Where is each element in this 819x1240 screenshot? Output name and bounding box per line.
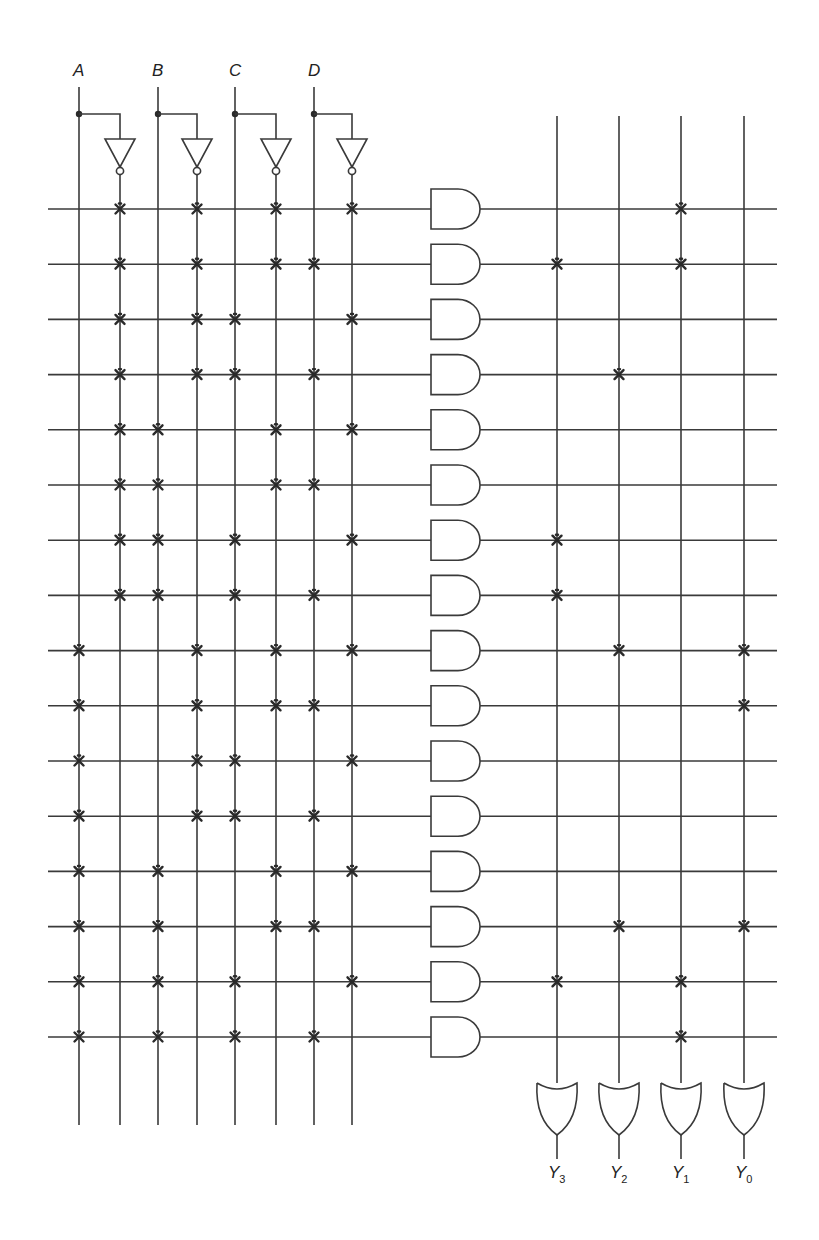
output-label: Y3	[548, 1163, 565, 1185]
and-gate-icon	[431, 962, 480, 1002]
inverter-icon	[182, 139, 212, 175]
inverter-icon	[337, 139, 367, 175]
inverter-icon	[105, 139, 135, 175]
output-y3	[553, 116, 562, 1083]
input-label: C	[229, 61, 242, 80]
output-label: Y1	[672, 1163, 689, 1185]
output-label: Y0	[735, 1163, 752, 1185]
and-gate-icon	[431, 575, 480, 615]
and-gate-icon	[431, 1017, 480, 1057]
input-label: A	[72, 61, 84, 80]
or-plane	[553, 116, 749, 1083]
and-gate-icon	[431, 299, 480, 339]
and-gate-icon	[431, 465, 480, 505]
input-a: A	[72, 61, 135, 1125]
and-gate-icon	[431, 189, 480, 229]
or-gate-icon	[661, 1083, 701, 1159]
or-gate-icon	[599, 1083, 639, 1159]
and-gate-icon	[431, 796, 480, 836]
and-gate-icon	[431, 851, 480, 891]
output-y0	[740, 116, 749, 1083]
input-label: B	[152, 61, 163, 80]
or-gate-icon	[537, 1083, 577, 1159]
and-gate-icon	[431, 244, 480, 284]
and-gate-icon	[431, 741, 480, 781]
output-section: Y3Y2Y1Y0	[537, 1083, 764, 1185]
and-gate-icon	[431, 520, 480, 560]
inverter-icon	[261, 139, 291, 175]
output-label: Y2	[610, 1163, 627, 1185]
and-gate-icon	[431, 410, 480, 450]
and-gate-icon	[431, 355, 480, 395]
or-gate-icon	[724, 1083, 764, 1159]
output-y1	[677, 116, 686, 1083]
pla-diagram: ABCD m0 = A'B'C'D'm1 = A'B'C'Dm2 = A'B'C…	[0, 0, 819, 1240]
and-gate-icon	[431, 907, 480, 947]
and-gate-icon	[431, 686, 480, 726]
and-gate-icon	[431, 631, 480, 671]
input-label: D	[308, 61, 320, 80]
output-y2	[615, 116, 624, 1083]
